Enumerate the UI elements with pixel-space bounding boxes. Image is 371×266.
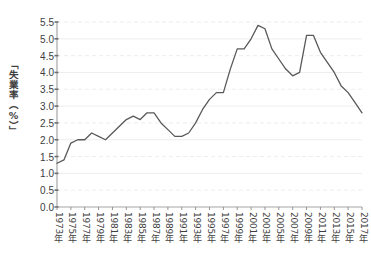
unemployment-rate-line-chart: 「失業率（%）」 0.00.51.01.52.02.53.03.54.04.55…: [0, 0, 371, 266]
plot-area: [0, 0, 371, 266]
data-line-失業率: [57, 25, 362, 163]
